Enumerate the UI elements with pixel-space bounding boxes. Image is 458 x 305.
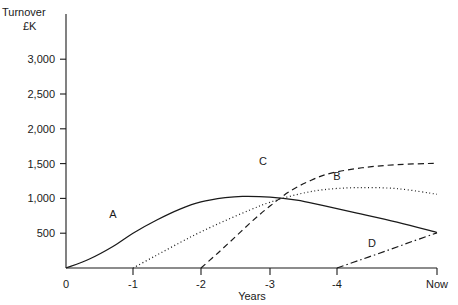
x-tick-label: 0	[63, 278, 69, 290]
chart-canvas: Turnover £K 5001,0001,5002,0002,5003,000…	[0, 0, 458, 305]
x-tick-label: -1	[128, 278, 138, 290]
x-tick-label: -3	[265, 278, 275, 290]
curve-b	[133, 188, 437, 268]
y-tick-label: 1,500	[27, 158, 55, 170]
curve-label-b: B	[333, 170, 340, 182]
y-tick-label: 2,000	[27, 123, 55, 135]
curve-d	[337, 233, 437, 268]
curve-label-d: D	[368, 237, 376, 249]
y-axis-ticks: 5001,0001,5002,0002,5003,000	[27, 53, 66, 239]
x-tick-label: Now	[426, 278, 448, 290]
x-tick-label: -2	[196, 278, 206, 290]
y-tick-label: 1,000	[27, 192, 55, 204]
curve-label-c: C	[259, 155, 267, 167]
y-axis-title-group: Turnover £K	[2, 6, 46, 32]
x-axis-ticks: 0-1-2-3-4Now	[63, 268, 448, 290]
data-curves	[66, 163, 437, 268]
y-tick-label: 500	[37, 227, 55, 239]
turnover-chart: Turnover £K 5001,0001,5002,0002,5003,000…	[0, 0, 458, 305]
y-tick-label: 3,000	[27, 53, 55, 65]
x-axis-title: Years	[238, 290, 266, 302]
curve-labels: ABCD	[109, 155, 376, 249]
y-axis-title-line1: Turnover	[2, 6, 46, 18]
x-tick-label: -4	[332, 278, 342, 290]
curve-a	[66, 196, 437, 268]
curve-label-a: A	[109, 208, 117, 220]
y-tick-label: 2,500	[27, 88, 55, 100]
y-axis-title-line2: £K	[23, 20, 37, 32]
